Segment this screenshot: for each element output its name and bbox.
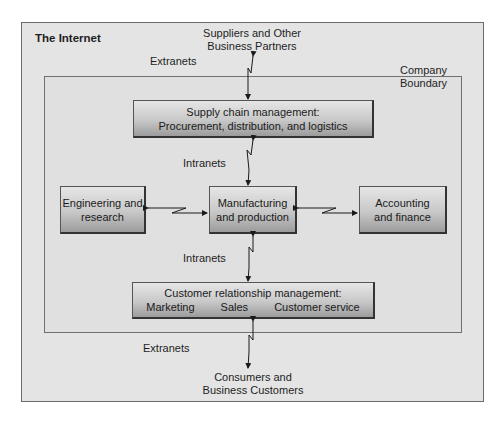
- connector-lines: [0, 0, 503, 423]
- extranet-bottom-connector: [248, 321, 253, 368]
- intranet-lower-connector: [248, 236, 253, 281]
- engineering-link: [148, 208, 207, 213]
- intranet-upper-connector: [247, 140, 253, 185]
- extranet-top-connector: [248, 56, 253, 99]
- accounting-link: [298, 208, 357, 213]
